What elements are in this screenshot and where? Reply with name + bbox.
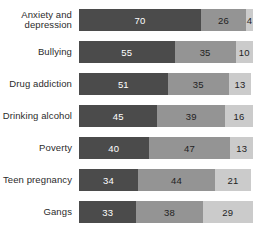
segment-value: 70 [134, 15, 145, 26]
chart-row: Poverty404713 [0, 137, 257, 159]
segment-value: 47 [184, 143, 195, 154]
bar-track: 333829 [79, 201, 253, 223]
segment-value: 35 [193, 79, 204, 90]
segment-value: 34 [103, 175, 114, 186]
chart-row: Bullying553510 [0, 41, 257, 63]
bar-segment: 13 [230, 137, 253, 159]
category-label: Anxiety and depression [0, 10, 72, 31]
bar-segment: 34 [79, 169, 138, 191]
segment-value: 4 [247, 15, 252, 26]
segment-value: 29 [222, 207, 233, 218]
segment-value: 10 [239, 47, 250, 58]
segment-value: 13 [234, 79, 245, 90]
bar-segment: 33 [79, 201, 136, 223]
chart-row: Gangs333829 [0, 201, 257, 223]
bar-segment: 44 [138, 169, 215, 191]
segment-value: 38 [164, 207, 175, 218]
stacked-bar-chart: Anxiety and depression70264Bullying55351… [0, 0, 257, 239]
category-label: Drinking alcohol [0, 111, 72, 122]
bar-segment: 40 [79, 137, 149, 159]
bar-segment: 26 [201, 9, 246, 31]
bar-track: 513513 [79, 73, 253, 95]
bar-segment: 21 [215, 169, 252, 191]
bar-segment: 45 [79, 105, 157, 127]
bar-track: 344421 [79, 169, 253, 191]
segment-value: 13 [236, 143, 247, 154]
chart-row: Drug addiction513513 [0, 73, 257, 95]
segment-value: 40 [108, 143, 119, 154]
chart-row: Drinking alcohol453916 [0, 105, 257, 127]
category-label: Bullying [0, 47, 72, 58]
bar-segment: 70 [79, 9, 201, 31]
category-label: Gangs [0, 207, 72, 218]
bar-segment: 16 [225, 105, 253, 127]
segment-value: 55 [121, 47, 132, 58]
bar-segment: 39 [157, 105, 225, 127]
segment-value: 33 [102, 207, 113, 218]
bar-track: 70264 [79, 9, 253, 31]
segment-value: 45 [113, 111, 124, 122]
chart-row: Anxiety and depression70264 [0, 9, 257, 31]
bar-track: 453916 [79, 105, 253, 127]
bar-track: 404713 [79, 137, 253, 159]
bar-track: 553510 [79, 41, 253, 63]
bar-segment: 38 [136, 201, 202, 223]
bar-segment: 10 [236, 41, 253, 63]
category-label: Teen pregnancy [0, 175, 72, 186]
bar-segment: 47 [149, 137, 231, 159]
bar-segment: 55 [79, 41, 175, 63]
category-label: Poverty [0, 143, 72, 154]
chart-row: Teen pregnancy344421 [0, 169, 257, 191]
bar-segment: 13 [229, 73, 252, 95]
segment-value: 26 [218, 15, 229, 26]
segment-value: 44 [171, 175, 182, 186]
segment-value: 39 [186, 111, 197, 122]
segment-value: 16 [234, 111, 245, 122]
segment-value: 21 [227, 175, 238, 186]
bar-segment: 35 [168, 73, 229, 95]
bar-segment: 29 [203, 201, 253, 223]
bar-segment: 35 [175, 41, 236, 63]
segment-value: 35 [200, 47, 211, 58]
category-label: Drug addiction [0, 79, 72, 90]
bar-segment: 4 [246, 9, 253, 31]
bar-segment: 51 [79, 73, 168, 95]
segment-value: 51 [118, 79, 129, 90]
